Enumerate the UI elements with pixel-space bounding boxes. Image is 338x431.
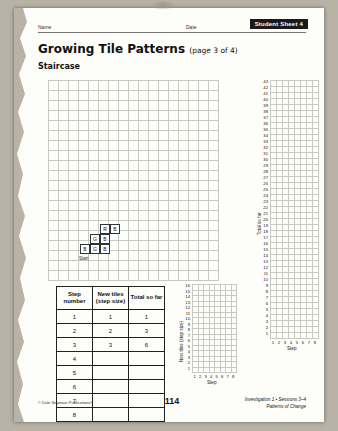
chart-ytick: 6 — [259, 301, 268, 306]
grid-cell — [49, 221, 59, 231]
grid-cell — [49, 191, 59, 201]
grid-cell — [129, 221, 139, 231]
grid-cell — [169, 81, 179, 91]
grid-cell — [149, 271, 159, 281]
page-title-main: Growing Tile Patterns — [38, 42, 185, 56]
grid-row — [49, 181, 219, 191]
grid-cell — [89, 91, 99, 101]
chart-ytick: 38 — [259, 109, 268, 114]
grid-cell — [189, 191, 199, 201]
grid-cell — [139, 211, 149, 221]
grid-cell — [189, 261, 199, 271]
grid-cell — [129, 141, 139, 151]
grid-cell — [199, 101, 209, 111]
table-cell: 1 — [57, 310, 93, 324]
table-row: 111 — [57, 310, 165, 324]
table-cell: 3 — [93, 338, 129, 352]
grid-cell — [89, 191, 99, 201]
grid-cell — [159, 191, 169, 201]
grid-cell — [109, 191, 119, 201]
grid-cell — [199, 251, 209, 261]
grid-cell — [69, 181, 79, 191]
table-cell: 4 — [57, 352, 93, 366]
grid-cell — [49, 241, 59, 251]
grid-cell — [159, 111, 169, 121]
grid-cell — [49, 161, 59, 171]
grid-row — [49, 91, 219, 101]
grid-cell — [149, 241, 159, 251]
grid-cell — [119, 191, 129, 201]
grid-cell — [189, 201, 199, 211]
torn-edge — [14, 8, 30, 422]
chart-total-so-far: 4342414039383736353433323130292827262524… — [254, 78, 324, 352]
grid-cell — [99, 91, 109, 101]
grid-cell — [99, 111, 109, 121]
grid-cell — [179, 151, 189, 161]
grid-row — [49, 261, 219, 271]
grid-cell — [109, 181, 119, 191]
grid-cell — [169, 91, 179, 101]
grid-cell — [159, 121, 169, 131]
grid-cell — [99, 271, 109, 281]
grid-cell — [189, 151, 199, 161]
grid-row — [49, 161, 219, 171]
grid-cell — [149, 81, 159, 91]
grid-cell — [89, 271, 99, 281]
grid-cell — [149, 161, 159, 171]
grid-cell — [69, 271, 79, 281]
grid-cell — [79, 81, 89, 91]
table-cell: 1 — [93, 310, 129, 324]
grid-cell — [169, 221, 179, 231]
grid-cell — [149, 171, 159, 181]
grid-cell — [99, 121, 109, 131]
grid-row — [49, 221, 219, 231]
col-total-so-far: Total so far — [129, 287, 165, 310]
grid-cell — [69, 171, 79, 181]
grid-cell — [89, 261, 99, 271]
grid-cell — [139, 81, 149, 91]
chart-ytick: 28 — [259, 169, 268, 174]
table-cell: 3 — [57, 338, 93, 352]
grid-cell — [129, 261, 139, 271]
grid-cell — [69, 141, 79, 151]
chart-ytick: 41 — [259, 91, 268, 96]
chart-ytick: 3 — [259, 319, 268, 324]
grid-cell — [119, 121, 129, 131]
grid-cell — [79, 161, 89, 171]
grid-cell — [169, 171, 179, 181]
chart-ytick: 13 — [259, 259, 268, 264]
grid-cell — [209, 201, 219, 211]
grid-cell — [99, 261, 109, 271]
grid-cell — [199, 81, 209, 91]
grid-cell — [169, 121, 179, 131]
grid-row — [49, 81, 219, 91]
grid-row — [49, 121, 219, 131]
grid-cell — [169, 201, 179, 211]
tile-b4: B — [100, 244, 110, 254]
grid-cell — [49, 131, 59, 141]
grid-cell — [89, 141, 99, 151]
table-cell — [129, 380, 165, 394]
table-row: 5 — [57, 366, 165, 380]
table-cell: 1 — [129, 310, 165, 324]
grid-cell — [199, 161, 209, 171]
grid-cell — [209, 131, 219, 141]
grid-cell — [119, 181, 129, 191]
grid-cell — [169, 211, 179, 221]
grid-row — [49, 231, 219, 241]
grid-cell — [169, 251, 179, 261]
grid-cell — [129, 271, 139, 281]
grid-cell — [169, 131, 179, 141]
chart-ytick: 17 — [259, 235, 268, 240]
grid-cell — [189, 161, 199, 171]
grid-cell — [89, 211, 99, 221]
grid-cell — [189, 181, 199, 191]
grid-cell — [59, 181, 69, 191]
grid-cell — [59, 81, 69, 91]
grid-cell — [199, 141, 209, 151]
grid-cell — [169, 231, 179, 241]
grid-cell — [49, 121, 59, 131]
grid-cell — [89, 131, 99, 141]
grid-cell — [109, 91, 119, 101]
grid-cell — [179, 271, 189, 281]
